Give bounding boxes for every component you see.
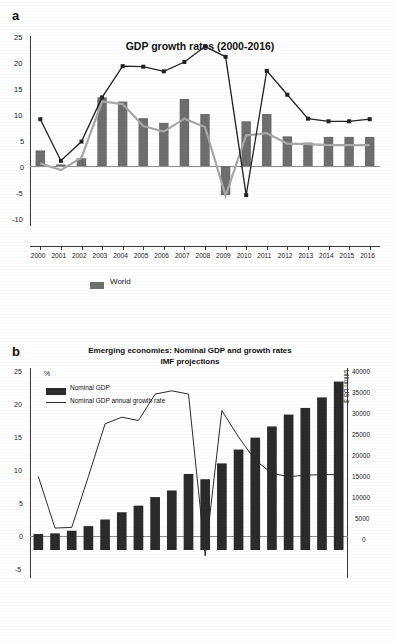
panel-a-plot	[0, 0, 394, 340]
x-tick-a-2002: 2002	[72, 252, 87, 259]
x-tick-a-2016: 2016	[360, 252, 375, 259]
x-tick-a-2000: 2000	[31, 252, 46, 259]
legend-swatch-world	[90, 282, 104, 289]
x-tick-a-2013: 2013	[298, 252, 313, 259]
x-tick-a-2001: 2001	[51, 252, 66, 259]
legend-line-growth-rate	[46, 402, 66, 403]
panel-a: a GDP growth rates (2000-2016) 25 20 15 …	[0, 0, 394, 340]
x-tick-a-2015: 2015	[340, 252, 355, 259]
x-tick-a-2007: 2007	[175, 252, 190, 259]
panel-a-x-axis	[30, 246, 380, 247]
x-tick-a-2009: 2009	[216, 252, 231, 259]
x-tick-a-2014: 2014	[319, 252, 334, 259]
x-tick-a-2006: 2006	[154, 252, 169, 259]
legend-label-growth-rate: Nominal GDP annual growth rate	[70, 397, 165, 404]
x-tick-a-2010: 2010	[237, 252, 252, 259]
legend-label-world: World	[110, 277, 131, 286]
x-tick-a-2003: 2003	[93, 252, 108, 259]
x-tick-a-2005: 2005	[134, 252, 149, 259]
x-tick-a-2004: 2004	[113, 252, 128, 259]
legend-swatch-nominal-gdp	[46, 388, 66, 395]
x-tick-a-2012: 2012	[278, 252, 293, 259]
panel-b-plot	[0, 340, 394, 642]
panel-b: b Emerging economies: Nominal GDP and gr…	[0, 340, 394, 642]
x-tick-a-2008: 2008	[196, 252, 211, 259]
x-tick-a-2011: 2011	[257, 252, 271, 259]
legend-label-nominal-gdp: Nominal GDP	[70, 384, 110, 391]
